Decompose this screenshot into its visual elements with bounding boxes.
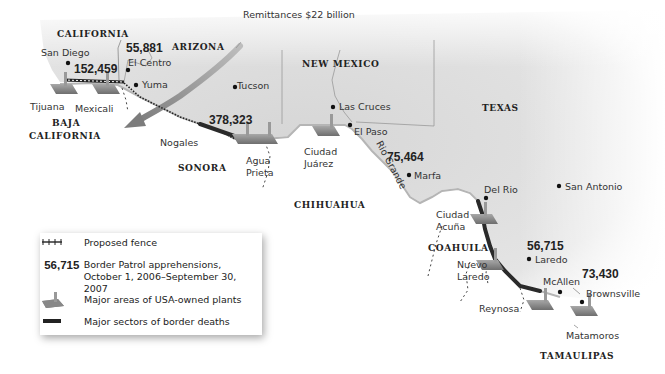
apprehensions-tucson: 378,323 <box>209 113 253 127</box>
city-las-cruces: Las Cruces <box>339 101 391 112</box>
city-agua-prieta-1: Agua <box>246 155 270 166</box>
city-brownsville: Brownsville <box>586 288 640 299</box>
legend-plants-label: Major areas of USA-owned plants <box>84 294 241 306</box>
label-baja-2: CALIFORNIA <box>29 131 101 141</box>
label-sonora: SONORA <box>178 163 227 173</box>
city-juarez-1: Ciudad <box>304 146 337 157</box>
city-marfa: Marfa <box>414 170 441 181</box>
city-san-diego: San Diego <box>41 47 90 58</box>
apprehensions-el-centro: 55,881 <box>126 41 163 55</box>
label-baja-1: BAJA <box>52 118 81 128</box>
label-arizona: ARIZONA <box>171 42 225 52</box>
apprehensions-marfa: 75,464 <box>387 150 424 164</box>
plant-icon <box>40 291 66 309</box>
city-juarez-2: Juárez <box>303 158 333 169</box>
city-mexicali: Mexicali <box>75 103 113 114</box>
city-yuma: Yuma <box>141 79 168 90</box>
legend-item-plants: Major areas of USA-owned plants <box>40 291 241 306</box>
city-matamoros: Matamoros <box>566 330 619 341</box>
city-nuevo-laredo-2: Laredo <box>457 271 490 282</box>
legend-item-fence: Proposed fence <box>40 237 157 249</box>
apprehensions-laredo: 56,715 <box>527 239 564 253</box>
legend-fence-label: Proposed fence <box>84 237 157 249</box>
city-nuevo-laredo-1: Nuevo <box>457 259 488 270</box>
city-acuna-1: Ciudad <box>436 209 469 220</box>
city-el-paso: El Paso <box>354 126 388 137</box>
label-california: CALIFORNIA <box>57 29 129 39</box>
legend-item-deaths: Major sectors of border deaths <box>40 316 230 328</box>
label-coahuila: COAHUILA <box>428 243 489 253</box>
deaths-icon <box>40 316 64 326</box>
legend-apprehensions-sample: 56,715 <box>44 259 79 271</box>
city-del-rio: Del Rio <box>484 184 518 195</box>
city-reynosa: Reynosa <box>479 303 519 314</box>
legend: Proposed fence 56,715 Border Patrol appr… <box>40 233 262 335</box>
label-new-mexico: NEW MEXICO <box>302 59 379 69</box>
city-tucson: Tucson <box>236 80 269 91</box>
city-san-antonio: San Antonio <box>565 181 623 192</box>
city-agua-prieta-2: Prieta <box>246 167 274 178</box>
city-el-centro: El Centro <box>128 57 172 68</box>
legend-item-apprehensions: 56,715 Border Patrol apprehensions, Octo… <box>40 259 262 295</box>
apprehensions-san-diego: 152,459 <box>74 62 118 76</box>
legend-deaths-label: Major sectors of border deaths <box>84 316 230 328</box>
label-tamaulipas: TAMAULIPAS <box>540 351 614 361</box>
fence-icon <box>40 237 64 247</box>
city-nogales: Nogales <box>160 137 198 148</box>
label-texas: TEXAS <box>482 103 519 113</box>
city-tijuana: Tijuana <box>29 101 64 112</box>
city-acuna-2: Acuña <box>436 221 465 232</box>
legend-apprehensions-label-1: Border Patrol apprehensions, <box>84 259 262 271</box>
label-remittances: Remittances $22 billion <box>243 9 355 20</box>
city-laredo: Laredo <box>535 254 568 265</box>
border-map: CALIFORNIA ARIZONA NEW MEXICO TEXAS BAJA… <box>0 0 665 374</box>
apprehensions-rio-grande-valley: 73,430 <box>582 267 619 281</box>
city-mcallen: McAllen <box>543 276 580 287</box>
label-chihuahua: CHIHUAHUA <box>294 200 366 210</box>
